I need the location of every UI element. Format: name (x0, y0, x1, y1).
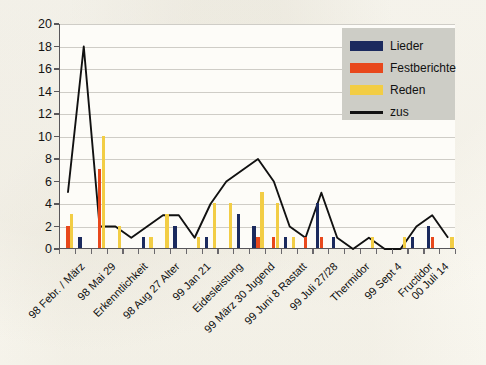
x-tick-mark (107, 249, 108, 254)
x-tick-mark (407, 249, 408, 254)
bar-lieder (427, 226, 430, 249)
x-tick-mark (312, 249, 313, 254)
bar-lieder (237, 214, 240, 248)
bar-reden (229, 203, 232, 248)
y-tick-mark (54, 226, 59, 227)
y-tick-mark (54, 23, 59, 24)
x-tick-mark (455, 249, 456, 254)
x-tick-mark (170, 249, 171, 254)
legend-item-zus[interactable]: zus (350, 104, 409, 120)
y-tick-label: 8 (22, 153, 52, 166)
y-tick-label: 10 (22, 131, 52, 144)
y-tick-label: 16 (22, 63, 52, 76)
x-tick-mark (423, 249, 424, 254)
y-tick-label: 0 (22, 243, 52, 256)
y-tick-label: 4 (22, 198, 52, 211)
x-tick-mark (328, 249, 329, 254)
x-tick-mark (360, 249, 361, 254)
x-tick-mark (439, 249, 440, 254)
bar-reden (403, 237, 406, 248)
x-tick-mark (186, 249, 187, 254)
bar-lieder (142, 237, 145, 248)
bar-festberichte (98, 169, 101, 248)
bar-festberichte (431, 237, 434, 248)
chart-legend: LiederFestberichteRedenzus (342, 28, 455, 120)
legend-item-festberichte[interactable]: Festberichte (350, 60, 456, 76)
legend-label: Reden (390, 84, 425, 96)
legend-swatch-box-icon (350, 63, 383, 73)
bar-reden (276, 203, 279, 248)
bar-reden (292, 237, 295, 248)
y-tick-mark (54, 203, 59, 204)
x-tick-mark (376, 249, 377, 254)
bar-reden (149, 237, 152, 248)
y-tick-mark (54, 46, 59, 47)
bar-reden (70, 214, 73, 248)
bar-lieder (173, 226, 176, 249)
bar-reden (165, 214, 168, 248)
x-tick-mark (249, 249, 250, 254)
x-tick-mark (217, 249, 218, 254)
y-tick-mark (54, 136, 59, 137)
x-tick-mark (138, 249, 139, 254)
legend-label: Lieder (390, 40, 423, 52)
x-tick-mark (265, 249, 266, 254)
y-tick-label: 2 (22, 221, 52, 234)
legend-swatch-box-icon (350, 85, 383, 95)
y-tick-label: 20 (22, 18, 52, 31)
bar-lieder (316, 203, 319, 248)
bar-festberichte (304, 237, 307, 248)
x-tick-mark (75, 249, 76, 254)
y-tick-label: 14 (22, 86, 52, 99)
y-tick-mark (54, 68, 59, 69)
x-tick-mark (122, 249, 123, 254)
x-tick-mark (91, 249, 92, 254)
x-tick-mark (202, 249, 203, 254)
x-tick-mark (59, 249, 60, 254)
x-tick-mark (154, 249, 155, 254)
y-tick-mark (54, 113, 59, 114)
x-tick-mark (233, 249, 234, 254)
bar-lieder (284, 237, 287, 248)
y-tick-mark (54, 91, 59, 92)
bar-reden (260, 192, 263, 248)
y-tick-label: 18 (22, 41, 52, 54)
y-tick-label: 12 (22, 108, 52, 121)
bar-reden (102, 136, 105, 249)
legend-label: zus (390, 106, 409, 118)
legend-swatch-box-icon (350, 41, 383, 51)
bar-festberichte (272, 237, 275, 248)
legend-item-reden[interactable]: Reden (350, 82, 425, 98)
legend-item-lieder[interactable]: Lieder (350, 38, 423, 54)
bar-reden (371, 237, 374, 248)
x-tick-mark (392, 249, 393, 254)
legend-swatch-line-icon (350, 111, 383, 114)
legend-label: Festberichte (390, 62, 456, 74)
bar-lieder (411, 237, 414, 248)
x-tick-mark (281, 249, 282, 254)
y-tick-mark (54, 181, 59, 182)
bar-festberichte (256, 237, 259, 248)
bar-lieder (78, 237, 81, 248)
bar-lieder (205, 237, 208, 248)
x-tick-mark (297, 249, 298, 254)
bar-lieder (252, 226, 255, 249)
x-tick-mark (344, 249, 345, 254)
bar-reden (197, 237, 200, 248)
bar-reden (118, 226, 121, 249)
bar-reden (213, 203, 216, 248)
bar-lieder (332, 237, 335, 248)
y-tick-mark (54, 158, 59, 159)
chart-root: 02468101214161820 98 Febr. / März98 Mai … (0, 0, 486, 365)
bar-festberichte (66, 226, 69, 249)
y-tick-label: 6 (22, 176, 52, 189)
bar-reden (450, 237, 453, 248)
bar-festberichte (320, 237, 323, 248)
